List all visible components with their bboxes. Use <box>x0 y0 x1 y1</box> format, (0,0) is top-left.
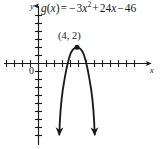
y-axis-label: y <box>30 2 34 11</box>
vertex-coordinate-label: (4, 2) <box>58 31 81 42</box>
parabola-left-branch <box>59 48 76 135</box>
equation-label: g(x)=−3x2+24x−46 <box>41 3 136 15</box>
quadratic-graph-figure: g(x)=−3x2+24x−46 (4, 2) y x 0 <box>0 0 160 149</box>
equation-term2-coefficient: 24 <box>100 2 112 14</box>
equation-term2-sign: + <box>91 2 100 14</box>
equation-term3-sign: − <box>116 2 125 14</box>
equation-term1-sign: − <box>68 2 77 14</box>
x-axis-label: x <box>150 66 154 75</box>
vertex-point-marker <box>75 45 80 50</box>
equation-equals: = <box>60 2 69 14</box>
graph-canvas <box>0 0 160 149</box>
origin-label: 0 <box>29 66 34 76</box>
equation-paren-close: ) <box>56 2 60 14</box>
equation-term3-constant: 46 <box>125 2 137 14</box>
parabola-right-branch <box>77 48 94 135</box>
